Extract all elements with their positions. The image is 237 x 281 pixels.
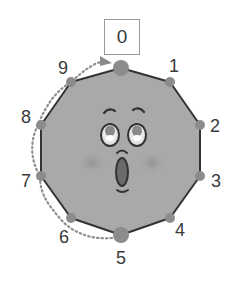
vertex-6 (66, 213, 76, 223)
arrowhead-icon (100, 56, 112, 66)
vertex-3 (195, 171, 205, 181)
vertex-label-4: 4 (175, 221, 185, 239)
vertex-0 (113, 60, 129, 76)
vertex-label-6: 6 (59, 228, 69, 246)
right-cheek (138, 151, 166, 175)
vertex-label-5: 5 (116, 249, 126, 267)
vertex-2 (195, 120, 205, 130)
vertex-9 (66, 77, 76, 87)
left-cheek (78, 151, 106, 175)
vertex-7 (36, 171, 46, 181)
start-label-box: 0 (104, 19, 140, 55)
mouth (116, 158, 128, 186)
vertex-label-1: 1 (169, 57, 179, 75)
vertex-5 (113, 227, 129, 243)
vertex-1 (165, 77, 175, 87)
start-label: 0 (117, 26, 128, 48)
vertex-label-7: 7 (21, 172, 31, 190)
vertex-label-2: 2 (210, 117, 220, 135)
vertex-label-3: 3 (211, 172, 221, 190)
vertex-8 (36, 120, 46, 130)
vertex-label-8: 8 (21, 108, 31, 126)
vertex-4 (165, 213, 175, 223)
vertex-label-9: 9 (58, 59, 68, 77)
